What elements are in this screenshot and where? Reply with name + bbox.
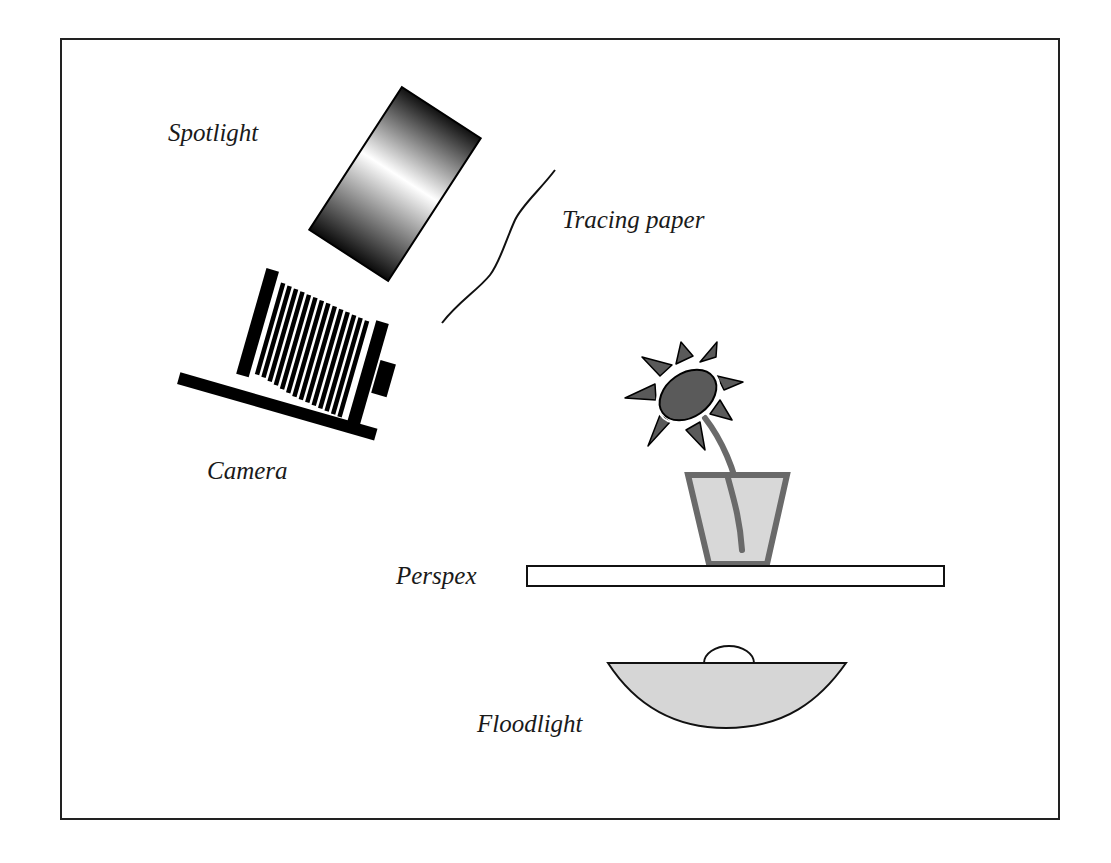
floodlight-reflector: [608, 663, 846, 728]
camera-icon: [177, 253, 412, 440]
camera-label: Camera: [207, 458, 288, 483]
tracing-paper-label: Tracing paper: [562, 207, 704, 232]
floodlight-bulb: [704, 646, 754, 663]
tracing-paper-icon: [442, 170, 555, 323]
spotlight-icon: [309, 87, 480, 281]
perspex-label: Perspex: [396, 563, 477, 588]
perspex-sheet: [527, 566, 944, 586]
spotlight-label: Spotlight: [168, 120, 258, 145]
flower-subject-icon: [625, 342, 787, 564]
floodlight-icon: [608, 646, 846, 728]
diagram-frame: [61, 39, 1059, 819]
floodlight-label: Floodlight: [477, 711, 583, 736]
